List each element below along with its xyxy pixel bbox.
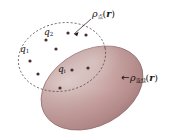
- paren-close: ): [154, 72, 158, 83]
- leader-arrowhead-rho-point: [74, 32, 79, 36]
- rho-continuous-subscript: 连续: [136, 77, 146, 83]
- point-charge-dot: [44, 38, 47, 41]
- point-charge-dot: [66, 31, 69, 34]
- point-charge-dot: [36, 72, 39, 75]
- point-charge-dot: [54, 47, 57, 50]
- point-charge-dot: [86, 66, 89, 69]
- label-charge-q2: q2: [44, 28, 53, 38]
- left-arrow-icon: ←: [121, 73, 129, 83]
- q1-subscript: 1: [26, 48, 29, 54]
- paren-close: ): [111, 8, 115, 19]
- leader-line-rho-point: [74, 19, 91, 34]
- charge-distribution-figure: ρ点(r) ← ρ连续(r) q1 q2 qi: [0, 0, 173, 137]
- point-charge-dot: [28, 59, 31, 62]
- label-charge-q1: q1: [20, 45, 29, 55]
- q2-subscript: 2: [50, 31, 53, 37]
- qi-subscript: i: [64, 68, 66, 74]
- point-charge-dot: [58, 86, 61, 89]
- point-charge-dot: [70, 68, 73, 71]
- label-rho-point-density: ρ点(r): [92, 9, 115, 19]
- figure-canvas: [0, 0, 173, 137]
- label-rho-continuous-density: ρ连续(r): [130, 73, 158, 83]
- point-charge-dot: [84, 33, 87, 36]
- label-charge-qi: qi: [58, 65, 65, 75]
